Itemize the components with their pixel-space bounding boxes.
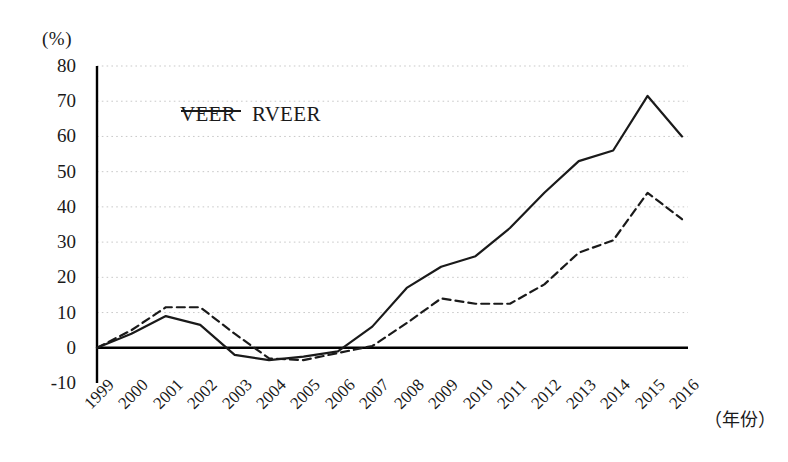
axes	[97, 66, 688, 383]
series-line-veer	[97, 193, 682, 360]
data-series-layer	[97, 96, 682, 360]
gridlines	[97, 66, 688, 313]
plot-canvas	[0, 0, 788, 462]
chart-figure: (%) 80706050403020100-10 199920002001200…	[0, 0, 788, 462]
series-line-rveer	[97, 96, 682, 360]
